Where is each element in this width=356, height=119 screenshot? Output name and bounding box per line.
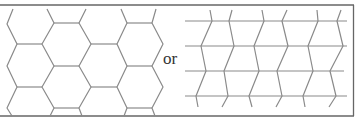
lattice-figure: or xyxy=(0,0,356,119)
lattice-diagram xyxy=(0,0,356,119)
brick-wall-lattice xyxy=(185,10,347,107)
or-connector-text: or xyxy=(163,50,177,67)
hexagonal-lattice xyxy=(7,9,163,116)
